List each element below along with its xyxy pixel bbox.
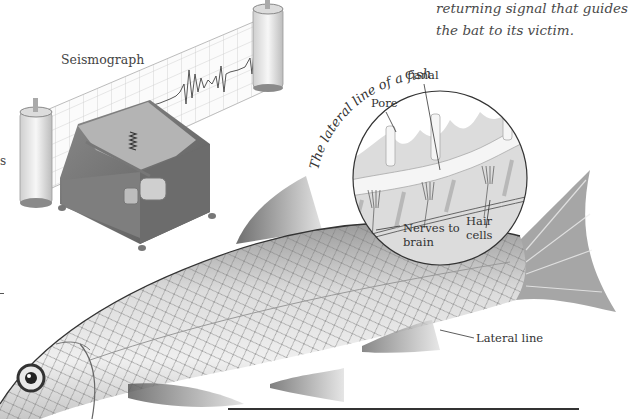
pore-label: Pore bbox=[371, 96, 398, 110]
hair-cells-label-line2: cells bbox=[466, 228, 493, 242]
seismograph-label: Seismograph bbox=[61, 52, 144, 67]
hair-cells-label-line1: Hair bbox=[466, 214, 493, 228]
nerves-to-brain-label: Nerves to brain bbox=[403, 221, 460, 249]
caption-line-2: the bat to its victim. bbox=[436, 19, 622, 41]
caption-line-1: returning signal that guides bbox=[436, 0, 622, 19]
fish-lateral-line-label: Lateral line bbox=[476, 331, 543, 345]
seismograph-illustration bbox=[20, 0, 283, 251]
left-margin-text-fragment: s bbox=[0, 154, 6, 168]
nerves-label-line2: brain bbox=[403, 235, 460, 249]
bat-echolocation-caption: returning signal that guides the bat to … bbox=[436, 0, 622, 41]
left-margin-tick bbox=[0, 293, 4, 294]
bottom-rule-divider bbox=[228, 408, 579, 410]
hair-cells-label: Hair cells bbox=[466, 214, 493, 242]
nerves-label-line1: Nerves to bbox=[403, 221, 460, 235]
canal-label: Canal bbox=[405, 68, 439, 82]
